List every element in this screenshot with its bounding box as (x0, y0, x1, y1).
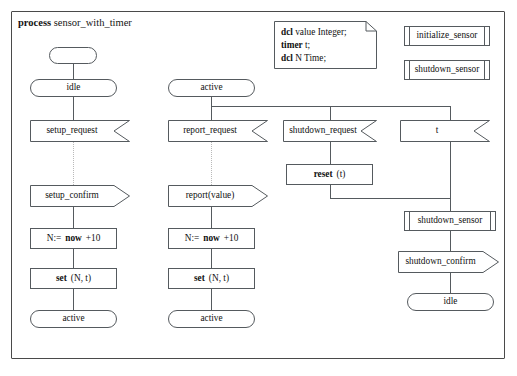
connector-start-to-idle (73, 64, 74, 79)
declaration-line-2: dcl N Time; (281, 52, 347, 65)
procedure-ref-label: shutdown_sensor (415, 65, 480, 74)
process-name: sensor_with_timer (54, 17, 132, 28)
input-setup-request[interactable]: setup_request (30, 120, 130, 142)
decl-keyword: dcl (281, 27, 293, 37)
output-report-value[interactable]: report(value) (168, 185, 268, 207)
output-shutdown-confirm[interactable]: shutdown_confirm (398, 251, 499, 273)
task-assign-suffix: +10 (224, 234, 239, 243)
decl-keyword: timer (281, 40, 303, 50)
connector-bus-to-shutdown-request (330, 106, 331, 120)
decl-body: N Time; (295, 53, 326, 63)
task-set-keyword: set (194, 274, 205, 283)
state-active-report-out[interactable]: active (168, 310, 255, 328)
procedure-ref-shutdown-sensor[interactable]: shutdown_sensor (404, 60, 490, 80)
task-reset-args: (t) (337, 170, 346, 179)
procedure-ref-initialize-sensor[interactable]: initialize_sensor (404, 26, 490, 46)
decl-keyword: dcl (281, 53, 293, 63)
connector-idle-to-setup-request (73, 97, 74, 120)
procedure-ref-label: initialize_sensor (417, 31, 478, 40)
connector-report-request-to-output (211, 142, 212, 187)
connector-active-to-bus (211, 97, 212, 106)
output-setup-confirm[interactable]: setup_confirm (30, 185, 130, 207)
procedure-call-label: shutdown_sensor (418, 216, 483, 225)
output-label: shutdown_confirm (405, 257, 475, 266)
task-assign-keyword: now (65, 234, 82, 243)
connector-task-to-set-report (211, 249, 212, 268)
state-active-setup[interactable]: active (30, 310, 117, 328)
start-symbol[interactable] (49, 47, 97, 64)
input-label: report_request (183, 126, 237, 135)
connector-confirm-to-idle (450, 273, 451, 293)
state-label: idle (67, 83, 81, 92)
process-header: process sensor_with_timer (18, 17, 132, 28)
state-idle-setup[interactable]: idle (30, 79, 117, 97)
output-label: report(value) (186, 191, 235, 200)
decl-body: t; (305, 40, 310, 50)
procedure-call-shutdown-sensor[interactable]: shutdown_sensor (404, 211, 496, 231)
connector-timer-to-shutdown-sensor (450, 142, 451, 211)
task-set-args: (N, t) (71, 274, 91, 283)
decl-body: value Integer; (295, 27, 346, 37)
state-active-report[interactable]: active (168, 79, 255, 97)
connector-shutdown-sensor-to-confirm (450, 231, 451, 251)
connector-bus-to-report-request (211, 106, 212, 120)
connector-bus-to-timer-input (450, 106, 451, 120)
connector-set-to-active-setup (73, 289, 74, 310)
input-label: t (436, 126, 439, 135)
state-label: active (62, 314, 84, 323)
output-label: setup_confirm (45, 191, 99, 200)
task-assign-prefix: N:= (47, 234, 62, 243)
connector-setup-confirm-to-task (73, 207, 74, 228)
state-label: idle (444, 297, 458, 306)
state-label: active (200, 314, 222, 323)
connector-shutdown-request-to-reset (330, 142, 331, 164)
task-assign-n-report[interactable]: N:= now +10 (168, 228, 255, 249)
connector-report-output-to-task (211, 207, 212, 228)
connector-set-to-active-report (211, 289, 212, 310)
connector-reset-merge-horizontal (330, 198, 450, 199)
state-label: active (200, 83, 222, 92)
input-label: setup_request (46, 126, 97, 135)
task-set-timer-report[interactable]: set (N, t) (168, 268, 255, 289)
input-timer-t[interactable]: t (400, 120, 490, 142)
declaration-note: dcl value Integer; timer t; dcl N Time; (274, 21, 377, 69)
connector-task-to-set-setup (73, 249, 74, 268)
input-report-request[interactable]: report_request (168, 120, 268, 142)
input-label: shutdown_request (289, 126, 357, 135)
task-set-timer-setup[interactable]: set (N, t) (30, 268, 117, 289)
process-keyword: process (18, 17, 51, 28)
task-reset-keyword: reset (314, 170, 333, 179)
task-assign-keyword: now (203, 234, 220, 243)
declaration-line-1: timer t; (281, 39, 347, 52)
sdl-diagram-canvas: process sensor_with_timer dcl value Inte… (0, 0, 517, 376)
task-set-args: (N, t) (209, 274, 229, 283)
task-set-keyword: set (56, 274, 67, 283)
declaration-line-0: dcl value Integer; (281, 26, 347, 39)
connector-setup-request-to-confirm (73, 142, 74, 187)
task-assign-suffix: +10 (86, 234, 101, 243)
task-reset-timer[interactable]: reset (t) (286, 164, 373, 185)
connector-reset-down (330, 185, 331, 198)
input-shutdown-request[interactable]: shutdown_request (283, 120, 377, 142)
declaration-text: dcl value Integer; timer t; dcl N Time; (281, 26, 347, 64)
task-assign-n-setup[interactable]: N:= now +10 (30, 228, 117, 249)
task-assign-prefix: N:= (185, 234, 200, 243)
state-idle-timer-out[interactable]: idle (407, 293, 494, 311)
